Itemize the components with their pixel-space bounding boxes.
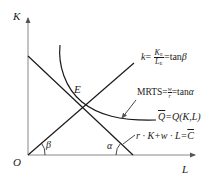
- isocost-line: [28, 56, 133, 155]
- origin-label: O: [13, 157, 21, 168]
- ke-over-le-fraction: KE LE: [154, 49, 164, 66]
- isocost-pointer: [123, 135, 135, 144]
- isocost-equation: r · K+w · L=C: [136, 131, 194, 141]
- beta-angle-arc: [42, 143, 46, 155]
- expansion-ray-equation: k= KE LE =tanβ: [141, 49, 187, 66]
- y-axis-label: K: [13, 11, 20, 22]
- mrts-pointer: [122, 100, 136, 118]
- equilibrium-point-label: E: [74, 84, 81, 95]
- x-axis-label: L: [182, 164, 188, 175]
- beta-angle-label: β: [46, 140, 51, 150]
- mrts-equation: MRTS=wr=tanα: [137, 86, 194, 99]
- isoquant-equation: Q=Q(K,L): [158, 112, 201, 122]
- alpha-angle-arc: [116, 143, 121, 155]
- alpha-angle-label: α: [107, 141, 112, 151]
